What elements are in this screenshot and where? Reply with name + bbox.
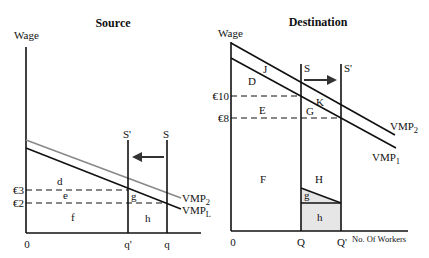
source-q-original-label: q [164,238,170,250]
arrow-left-icon [132,152,142,162]
source-vmp2-curve [26,140,181,198]
destination-vmp2-curve [231,43,395,135]
source-area-g: g [131,190,137,202]
destination-supply-original-label: S [304,62,310,74]
destination-title: Destination [289,15,348,29]
destination-area-h: h [317,211,323,223]
destination-area-K: K [316,96,324,108]
destination-wage-high-label: €10 [213,90,230,102]
destination-origin-label: 0 [230,236,236,248]
destination-vmp1-label: VMP1 [372,151,400,166]
destination-x-axis-label: No. Of Workers [352,234,406,244]
source-wage-high-label: €3 [13,184,25,196]
destination-vmp2-label: VMP2 [390,120,418,135]
destination-area-E: E [259,104,266,116]
source-panel: Source Wage S' S €3 €2 d e f g h VMP2 VM… [13,16,211,250]
source-wage-low-label: €2 [13,197,24,209]
arrow-right-icon [327,75,337,85]
destination-area-F: F [260,173,266,185]
source-area-h: h [145,212,151,224]
source-area-e: e [63,189,68,201]
source-y-axis-label: Wage [14,29,39,41]
destination-q-shifted-label: Q' [337,236,347,248]
source-supply-original-label: S [163,128,169,140]
destination-vmp1-curve [231,58,396,148]
destination-area-D: D [248,75,256,87]
destination-area-G: G [306,105,314,117]
source-q-shifted-label: q' [124,238,132,250]
destination-area-J: J [263,63,268,75]
destination-area-H: H [315,173,323,185]
destination-panel: Destination Wage S S' €10 €8 J D K E G F… [213,15,419,248]
destination-area-g: g [304,189,310,201]
source-title: Source [95,16,131,30]
source-area-d: d [57,175,63,187]
destination-q-original-label: Q [297,236,305,248]
destination-supply-shifted-label: S' [344,62,352,74]
source-supply-shifted-label: S' [123,128,131,140]
destination-wage-low-label: €8 [218,112,230,124]
source-origin-label: 0 [24,238,30,250]
source-area-f: f [71,211,75,223]
destination-y-axis-label: Wage [218,27,243,39]
migration-diagram: Source Wage S' S €3 €2 d e f g h VMP2 VM… [0,0,429,258]
